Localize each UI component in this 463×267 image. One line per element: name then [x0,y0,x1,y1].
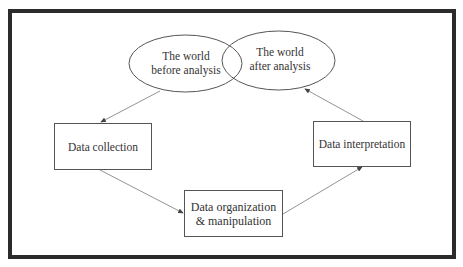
label-world-before-line1: The world [162,49,210,63]
arrow-before-to-collection [101,91,160,122]
arrow-collection-to-organization [100,170,183,213]
arrow-interpretation-to-after [305,89,363,121]
label-data-organization-line1: Data organization [191,200,276,214]
label-data-collection: Data collection [68,140,138,154]
arrow-organization-to-interpretation [283,167,362,214]
label-world-after-line1: The world [256,45,304,59]
label-world-after-line2: after analysis [250,59,311,73]
label-world-before: The world before analysis [135,46,237,80]
label-world-after: The world after analysis [230,42,330,76]
box-data-organization: Data organization & manipulation [184,190,283,237]
box-data-collection: Data collection [54,123,152,170]
label-data-interpretation: Data interpretation [319,137,406,151]
box-data-interpretation: Data interpretation [313,121,411,167]
label-world-before-line2: before analysis [151,63,220,77]
label-data-organization-line2: & manipulation [196,214,272,228]
